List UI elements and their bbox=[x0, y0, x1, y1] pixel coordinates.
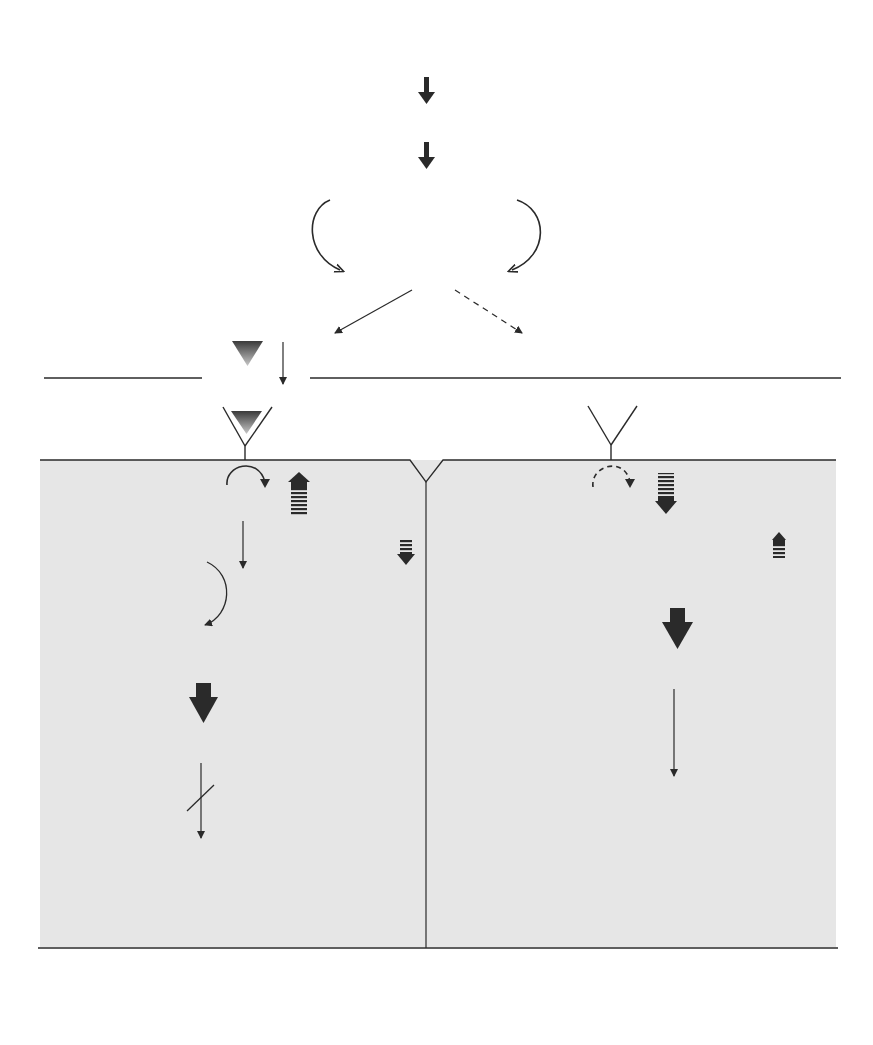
gh-receptor-summer-icon bbox=[223, 407, 272, 460]
aep-increase-arrow-icon bbox=[772, 532, 786, 558]
aep-decrease-arrow-icon bbox=[397, 540, 415, 565]
thick-down-arrow-icon bbox=[189, 683, 218, 723]
diagram-graphics bbox=[0, 0, 873, 1045]
gh-receptor-winter-icon bbox=[588, 406, 637, 460]
thick-down-arrow-icon bbox=[418, 77, 435, 104]
thick-down-arrow-icon bbox=[418, 142, 435, 169]
igf1-decrease-arrow-icon bbox=[655, 473, 677, 514]
thick-down-arrow-icon bbox=[662, 608, 693, 649]
igf1-increase-arrow-icon bbox=[288, 472, 310, 516]
gh-hormone-icon bbox=[232, 341, 263, 366]
